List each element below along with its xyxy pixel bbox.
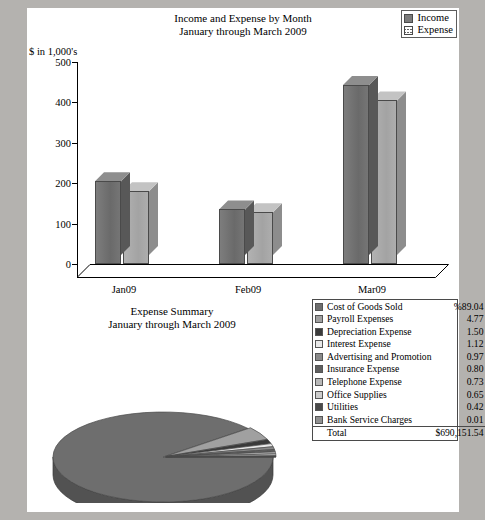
y-axis-tick-mark	[72, 143, 77, 144]
table-row: Advertising and Promotion0.97	[313, 350, 485, 363]
bar-front-face	[95, 181, 121, 264]
bar-feb09-income	[219, 209, 245, 264]
expense-value: 1.12	[433, 338, 485, 351]
bar-chart-title-line1: Income and Expense by Month	[174, 12, 311, 24]
report-page: Income and Expense by Month January thro…	[27, 8, 459, 512]
legend-swatch-cell	[313, 401, 325, 414]
expense-value: 0.80	[433, 363, 485, 376]
legend-item-income: Income	[404, 12, 453, 24]
bar-side-face	[149, 182, 158, 255]
table-row: Insurance Expense0.80	[313, 363, 485, 376]
bar-side-face	[397, 91, 406, 255]
bar-side-face	[273, 203, 282, 255]
expense-table: Cost of Goods Sold%89.04Payroll Expenses…	[313, 300, 485, 440]
expense-value: 0.73	[433, 376, 485, 389]
table-row: Depreciation Expense1.50	[313, 325, 485, 338]
color-swatch-icon	[315, 365, 323, 373]
table-row: Cost of Goods Sold%89.04	[313, 300, 485, 313]
legend-swatch-cell	[313, 313, 325, 326]
y-axis-line	[77, 62, 78, 278]
legend-item-expense: Expense	[404, 24, 453, 36]
chart-floor	[77, 264, 449, 278]
pie-chart-title-line2: January through March 2009	[27, 318, 317, 331]
expense-label: Utilities	[325, 401, 433, 414]
bar-front-face	[219, 209, 245, 264]
color-swatch-icon	[315, 315, 323, 323]
expense-value: 1.50	[433, 325, 485, 338]
legend-swatch-cell	[313, 388, 325, 401]
pie-chart-graphic	[45, 405, 295, 503]
expense-label: Interest Expense	[325, 338, 433, 351]
color-swatch-icon	[315, 303, 323, 311]
y-axis-tick-mark	[72, 183, 77, 184]
expense-value: 0.01	[433, 413, 485, 426]
bar-side-face	[369, 76, 378, 255]
expense-label: Bank Service Charges	[325, 413, 433, 426]
y-axis-tick-mark	[72, 102, 77, 103]
table-row: Utilities0.42	[313, 401, 485, 414]
table-row: Office Supplies0.65	[313, 388, 485, 401]
expense-table-body: Cost of Goods Sold%89.04Payroll Expenses…	[313, 300, 485, 440]
pie-chart-title-line1: Expense Summary	[27, 305, 317, 318]
table-row: Telephone Expense0.73	[313, 376, 485, 389]
expense-label: Office Supplies	[325, 388, 433, 401]
bar-side-face	[245, 200, 254, 255]
expense-label: Insurance Expense	[325, 363, 433, 376]
y-axis-tick-mark	[72, 62, 77, 63]
table-total-row: Total$690,151.54	[313, 426, 485, 439]
color-swatch-icon	[315, 353, 323, 361]
bar-chart-plot-area: 0100200300400500Jan09Feb09Mar09	[77, 62, 449, 278]
expense-value: %89.04	[433, 300, 485, 313]
table-row: Payroll Expenses4.77	[313, 313, 485, 326]
bar-chart-title: Income and Expense by Month January thro…	[27, 12, 459, 37]
expense-label: Payroll Expenses	[325, 313, 433, 326]
color-swatch-icon	[315, 340, 323, 348]
legend-swatch-cell	[313, 350, 325, 363]
legend-swatch-cell	[313, 300, 325, 313]
bar-chart: Income and Expense by Month January thro…	[27, 8, 459, 293]
color-swatch-icon	[315, 403, 323, 411]
pie-section: Expense Summary January through March 20…	[27, 293, 459, 512]
legend-swatch-cell	[313, 325, 325, 338]
income-swatch-icon	[404, 14, 413, 23]
expense-value: 0.42	[433, 401, 485, 414]
color-swatch-icon	[315, 416, 323, 424]
legend-swatch-cell	[313, 376, 325, 389]
legend-label-expense: Expense	[417, 24, 453, 36]
expense-value: 0.97	[433, 350, 485, 363]
y-axis-label: $ in 1,000's	[29, 46, 77, 57]
table-row: Bank Service Charges0.01	[313, 413, 485, 426]
pie-chart-title: Expense Summary January through March 20…	[27, 305, 317, 330]
bar-jan09-income	[95, 181, 121, 264]
total-label: Total	[325, 426, 433, 439]
color-swatch-icon	[315, 378, 323, 386]
expense-value: 0.65	[433, 388, 485, 401]
bar-chart-legend: Income Expense	[401, 10, 457, 38]
expense-label: Depreciation Expense	[325, 325, 433, 338]
color-swatch-icon	[315, 328, 323, 336]
expense-label: Telephone Expense	[325, 376, 433, 389]
bar-side-face	[121, 172, 130, 255]
legend-label-income: Income	[417, 12, 449, 24]
total-swatch-spacer	[313, 426, 325, 439]
expense-value: 4.77	[433, 313, 485, 326]
expense-swatch-icon	[404, 26, 413, 35]
legend-swatch-cell	[313, 338, 325, 351]
bar-mar09-income	[343, 85, 369, 264]
legend-swatch-cell	[313, 413, 325, 426]
table-row: Interest Expense1.12	[313, 338, 485, 351]
legend-swatch-cell	[313, 363, 325, 376]
bar-chart-title-line2: January through March 2009	[27, 25, 459, 38]
y-axis-tick-mark	[72, 224, 77, 225]
total-value: $690,151.54	[433, 426, 485, 439]
bar-front-face	[343, 85, 369, 264]
expense-label: Cost of Goods Sold	[325, 300, 433, 313]
expense-label: Advertising and Promotion	[325, 350, 433, 363]
expense-summary-table: Cost of Goods Sold%89.04Payroll Expenses…	[312, 299, 458, 441]
color-swatch-icon	[315, 391, 323, 399]
